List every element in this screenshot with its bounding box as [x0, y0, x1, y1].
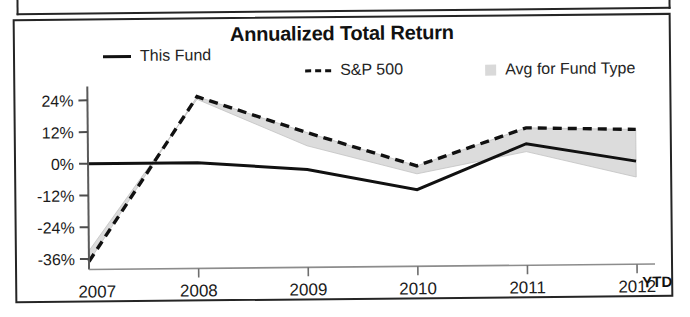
y-axis-tick-label: 0% — [51, 156, 74, 173]
y-axis-tick-label: 24% — [41, 92, 73, 109]
x-axis-ytd-label: YTD — [642, 273, 672, 290]
plot-area: 24%12%0%-12%-24%-36% 2007200820092010201… — [15, 15, 676, 305]
x-axis-tick-label: 2008 — [180, 281, 218, 300]
x-axis-line — [89, 264, 655, 269]
y-axis-tick-label: 12% — [42, 124, 74, 141]
annualized-total-return-panel: Annualized Total Return This Fund S&P 50… — [13, 13, 674, 303]
x-axis-tick-label: 2009 — [289, 280, 327, 299]
sp500-line — [87, 92, 637, 261]
y-axis-line — [87, 86, 89, 269]
y-axis-tick-label: -12% — [37, 188, 75, 205]
annualized-total-return-chart: 24%12%0%-12%-24%-36% 2007200820092010201… — [15, 15, 676, 305]
y-axis-labels: 24%12%0%-12%-24%-36% — [36, 92, 75, 268]
scanned-page-root: Annualized Total Return This Fund S&P 50… — [0, 0, 690, 317]
x-axis-tick-label: 2011 — [509, 278, 546, 297]
x-axis-tick-label: 2010 — [399, 279, 437, 298]
x-axis-labels: 200720082009201020112012 — [78, 277, 656, 302]
avg-fund-type-band — [87, 92, 637, 261]
y-axis-tick-label: -36% — [38, 251, 76, 268]
x-axis-tick-label: 2007 — [78, 282, 116, 301]
y-axis-tick-label: -24% — [37, 219, 75, 236]
